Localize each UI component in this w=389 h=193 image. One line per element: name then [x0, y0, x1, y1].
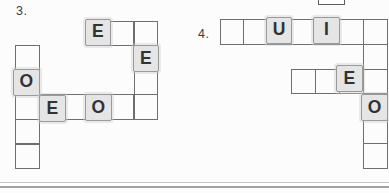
letter-tile-u: U [266, 17, 293, 44]
section-divider [0, 182, 389, 188]
letter-tile-i: I [313, 17, 340, 44]
tile-letter: E [92, 23, 104, 41]
letter-tile-o: O [85, 94, 112, 121]
worksheet-page: 3. EEOEO 4. UIEO [0, 0, 389, 193]
partial-cell-above [318, 0, 345, 5]
grid-cell [220, 19, 245, 45]
grid-cell [15, 119, 40, 145]
puzzle-3-number: 3. [16, 4, 27, 18]
tile-letter: E [47, 100, 59, 118]
grid-cell [339, 19, 364, 45]
grid-cell [110, 94, 135, 120]
letter-tile-o: O [13, 69, 40, 96]
tile-letter: E [140, 50, 152, 68]
letter-tile-e: E [85, 19, 112, 46]
grid-cell [15, 144, 40, 170]
tile-letter: E [343, 70, 355, 88]
grid-cell [134, 21, 159, 47]
grid-cell [134, 94, 159, 120]
letter-tile-e: E [39, 95, 66, 122]
tile-letter: U [273, 21, 286, 39]
letter-tile-o: O [361, 94, 388, 121]
tile-letter: O [368, 99, 382, 117]
tile-letter: O [92, 99, 106, 117]
grid-cell [363, 69, 388, 95]
grid-cell [291, 69, 316, 95]
grid-cell [134, 70, 159, 96]
grid-cell [110, 21, 135, 47]
grid-cell [363, 19, 388, 45]
grid-cell [363, 44, 388, 70]
grid-cell [363, 143, 388, 169]
letter-tile-e: E [336, 65, 363, 92]
puzzle-4-number: 4. [198, 27, 209, 41]
letter-tile-e: E [133, 45, 160, 72]
grid-cell [15, 45, 40, 71]
tile-letter: O [19, 73, 33, 91]
grid-cell [243, 19, 268, 45]
grid-cell [62, 94, 87, 120]
grid-cell [15, 94, 40, 120]
tile-letter: I [324, 21, 329, 39]
grid-cell [363, 118, 388, 144]
